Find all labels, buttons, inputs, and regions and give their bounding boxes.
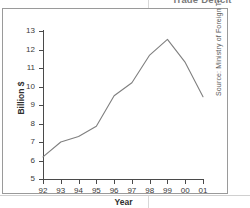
page-divider — [0, 195, 250, 196]
line-series — [3, 9, 250, 208]
page-rule-bottom — [148, 196, 149, 208]
figure-frame: 5678910111213 92939495969798990001 Billi… — [2, 8, 228, 194]
title-strip: Trade Deficit — [0, 0, 250, 7]
source-note: Source: Ministry of Foreign Trade — [215, 0, 223, 96]
trade-deficit-line — [43, 39, 203, 156]
